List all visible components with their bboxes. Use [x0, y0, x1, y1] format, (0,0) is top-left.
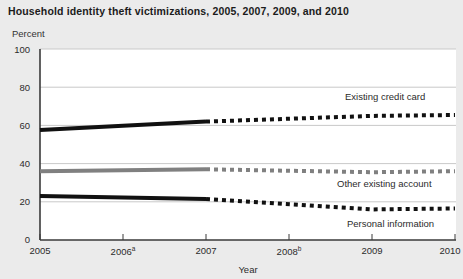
- plot-background: [40, 49, 456, 240]
- x-tick-2006: 2006a: [111, 245, 136, 257]
- series-label-personal-information: Personal information: [347, 218, 434, 229]
- x-tick-2005-text: 2005: [29, 245, 50, 256]
- x-axis-title: Year: [238, 264, 257, 275]
- x-tick-2006-text: 2006: [111, 246, 132, 257]
- series-label-other-existing-account: Other existing account: [337, 178, 432, 189]
- x-tick-2008-text: 2008: [277, 246, 298, 257]
- chart-container: Household identity theft victimizations,…: [0, 0, 463, 279]
- x-tick-2009: 2009: [361, 245, 382, 256]
- x-tick-2005: 2005: [29, 245, 50, 256]
- x-tick-2007-text: 2007: [195, 245, 216, 256]
- x-tick-2008-footnote: b: [298, 245, 302, 252]
- x-tick-2009-text: 2009: [361, 245, 382, 256]
- x-tick-2006-footnote: a: [132, 245, 136, 252]
- x-tick-2007: 2007: [195, 245, 216, 256]
- series-label-existing-credit-card: Existing credit card: [345, 91, 425, 102]
- plot-area: [0, 0, 463, 279]
- x-tick-2008: 2008b: [277, 245, 302, 257]
- x-tick-2010-text: 2010: [439, 245, 460, 256]
- x-tick-2010: 2010: [439, 245, 460, 256]
